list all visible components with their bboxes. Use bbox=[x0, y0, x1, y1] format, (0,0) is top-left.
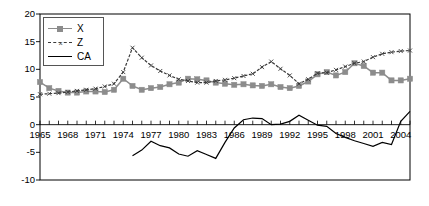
data-point-x bbox=[407, 76, 412, 81]
data-point-x bbox=[398, 78, 403, 83]
x-axis-label: 1974 bbox=[110, 129, 136, 140]
data-point-x bbox=[287, 86, 292, 91]
data-point-x bbox=[47, 86, 52, 91]
x-axis-label: 1986 bbox=[221, 129, 247, 140]
legend-swatch-z-icon: × bbox=[48, 38, 72, 48]
data-point-x bbox=[389, 78, 394, 83]
x-axis-label: 1992 bbox=[277, 129, 303, 140]
x-axis-label: 1977 bbox=[138, 129, 164, 140]
legend-item-z: × Z bbox=[48, 36, 100, 50]
data-point-x bbox=[278, 84, 283, 89]
data-point-x bbox=[121, 76, 126, 81]
data-point-x bbox=[333, 73, 338, 78]
data-point-x bbox=[370, 70, 375, 75]
data-point-x bbox=[148, 86, 153, 91]
data-point-x bbox=[139, 87, 144, 92]
chart-legend: X × Z CA bbox=[43, 17, 104, 66]
data-point-x bbox=[250, 83, 255, 88]
data-point-x bbox=[380, 70, 385, 75]
legend-swatch-x-icon bbox=[48, 24, 72, 34]
data-point-x bbox=[343, 70, 348, 75]
data-point-x bbox=[361, 63, 366, 68]
y-axis-label: 10 bbox=[2, 63, 35, 74]
chart-container: X × Z CA 20151050-5-10196519681971197419… bbox=[0, 0, 429, 206]
x-axis-label: 2004 bbox=[388, 129, 414, 140]
y-axis-label: -5 bbox=[2, 146, 35, 157]
data-point-x bbox=[93, 89, 98, 94]
data-point-x bbox=[158, 84, 163, 89]
legend-swatch-ca-icon bbox=[48, 52, 72, 62]
y-axis-label: 20 bbox=[2, 8, 35, 19]
data-point-x bbox=[232, 82, 237, 87]
legend-item-x: X bbox=[48, 22, 100, 36]
data-point-x bbox=[111, 87, 116, 92]
data-point-x bbox=[259, 83, 264, 88]
x-axis-label: 1971 bbox=[83, 129, 109, 140]
y-axis-label: 5 bbox=[2, 91, 35, 102]
y-axis-label: -10 bbox=[2, 174, 35, 185]
legend-label-z: Z bbox=[77, 38, 83, 48]
x-axis-label: 1989 bbox=[249, 129, 275, 140]
x-axis-label: 1995 bbox=[305, 129, 331, 140]
y-axis-label: 15 bbox=[2, 36, 35, 47]
data-point-x bbox=[102, 89, 107, 94]
legend-item-ca: CA bbox=[48, 50, 100, 64]
x-axis-label: 1983 bbox=[194, 129, 220, 140]
x-axis-label: 1968 bbox=[55, 129, 81, 140]
data-point-x bbox=[167, 82, 172, 87]
data-point-x bbox=[241, 82, 246, 87]
legend-label-ca: CA bbox=[77, 52, 91, 62]
legend-label-x: X bbox=[77, 24, 84, 34]
x-axis-label: 1998 bbox=[332, 129, 358, 140]
x-axis-label: 1980 bbox=[166, 129, 192, 140]
data-point-x bbox=[130, 83, 135, 88]
data-point-x bbox=[269, 82, 274, 87]
x-axis-label: 1965 bbox=[27, 129, 53, 140]
data-point-x bbox=[37, 79, 42, 84]
x-axis-label: 2001 bbox=[360, 129, 386, 140]
